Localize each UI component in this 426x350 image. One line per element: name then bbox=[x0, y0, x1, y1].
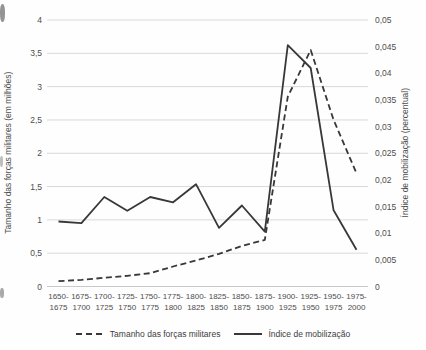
right-axis-title: Índice de mobilização (percentual) bbox=[401, 71, 410, 235]
left-axis-tick-label: 3,5 bbox=[30, 48, 42, 58]
x-axis-tick-label: 2000 bbox=[348, 303, 366, 312]
x-axis-tick-label: 1800- bbox=[186, 292, 207, 301]
line-chart-canvas: 00,511,522,533,5400,0050,010,0150,020,02… bbox=[0, 0, 426, 350]
chart-page: 00,511,522,533,5400,0050,010,0150,020,02… bbox=[0, 0, 426, 350]
legend: Tamanho das forças militares Índice de m… bbox=[0, 327, 426, 341]
x-axis-tick-label: 1775- bbox=[163, 292, 184, 301]
scan-artifact bbox=[0, 156, 3, 167]
x-axis-tick-label: 1675 bbox=[50, 303, 68, 312]
series-line-forcas-militares bbox=[59, 50, 357, 281]
x-axis-tick-label: 1925- bbox=[300, 292, 321, 301]
x-axis-tick-label: 1775 bbox=[141, 303, 159, 312]
x-axis-tick-label: 1900 bbox=[256, 303, 274, 312]
scan-artifact bbox=[0, 4, 5, 22]
legend-label: Tamanho das forças militares bbox=[110, 329, 221, 339]
right-axis-tick-label: 0 bbox=[375, 282, 380, 292]
x-axis-tick-label: 1850 bbox=[210, 303, 228, 312]
right-axis-tick-label: 0,03 bbox=[375, 122, 392, 132]
x-axis-tick-label: 1950- bbox=[323, 292, 344, 301]
left-axis-tick-label: 2,5 bbox=[30, 115, 42, 125]
x-axis-tick-label: 1675- bbox=[71, 292, 92, 301]
x-axis-tick-label: 1950 bbox=[302, 303, 320, 312]
left-axis-tick-label: 0,5 bbox=[30, 248, 42, 258]
scan-artifact bbox=[0, 288, 4, 298]
x-axis-tick-label: 1750 bbox=[118, 303, 136, 312]
solid-line-swatch-icon bbox=[234, 333, 262, 335]
x-axis-tick-label: 1650- bbox=[48, 292, 69, 301]
right-axis-tick-label: 0,035 bbox=[375, 95, 397, 105]
x-axis-tick-label: 1825 bbox=[187, 303, 205, 312]
x-axis-tick-label: 1700- bbox=[94, 292, 115, 301]
x-axis-tick-label: 1975 bbox=[325, 303, 343, 312]
left-axis-tick-label: 1 bbox=[37, 215, 42, 225]
right-axis-tick-label: 0,045 bbox=[375, 42, 397, 52]
x-axis-tick-label: 1850- bbox=[232, 292, 253, 301]
x-axis-tick-label: 1875 bbox=[233, 303, 251, 312]
x-axis-tick-label: 1875- bbox=[255, 292, 276, 301]
x-axis-tick-label: 1750- bbox=[140, 292, 161, 301]
series-line-indice-mobilizacao bbox=[59, 45, 357, 250]
left-axis-tick-label: 2 bbox=[37, 148, 42, 158]
legend-item-indice-mobilizacao: Índice de mobilização bbox=[234, 329, 350, 339]
legend-label: Índice de mobilização bbox=[268, 329, 350, 339]
x-axis-tick-label: 1825- bbox=[209, 292, 230, 301]
right-axis-tick-label: 0,02 bbox=[375, 175, 392, 185]
x-axis-tick-label: 1800 bbox=[164, 303, 182, 312]
right-axis-tick-label: 0,05 bbox=[375, 15, 392, 25]
left-axis-tick-label: 4 bbox=[37, 15, 42, 25]
x-axis-tick-label: 1725 bbox=[95, 303, 113, 312]
right-axis-tick-label: 0,005 bbox=[375, 255, 397, 265]
x-axis-tick-label: 1975- bbox=[346, 292, 367, 301]
left-axis-tick-label: 1,5 bbox=[30, 182, 42, 192]
x-axis-tick-label: 1725- bbox=[117, 292, 138, 301]
x-axis-tick-label: 1900- bbox=[278, 292, 299, 301]
dashed-line-swatch-icon bbox=[76, 333, 104, 335]
right-axis-tick-label: 0,015 bbox=[375, 202, 397, 212]
left-axis-title: Tamanho das forças militares (em milhões… bbox=[4, 58, 13, 248]
x-axis-tick-label: 1925 bbox=[279, 303, 297, 312]
right-axis-tick-label: 0,01 bbox=[375, 228, 392, 238]
right-axis-tick-label: 0,04 bbox=[375, 68, 392, 78]
x-axis-tick-label: 1700 bbox=[72, 303, 90, 312]
legend-item-forcas-militares: Tamanho das forças militares bbox=[76, 329, 221, 339]
left-axis-tick-label: 3 bbox=[37, 82, 42, 92]
left-axis-tick-label: 0 bbox=[37, 282, 42, 292]
right-axis-tick-label: 0,025 bbox=[375, 148, 397, 158]
